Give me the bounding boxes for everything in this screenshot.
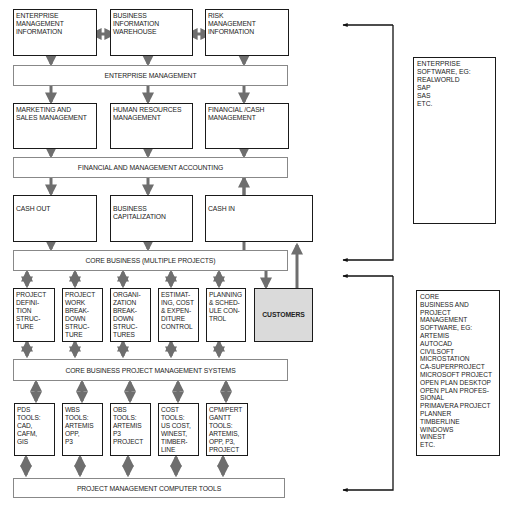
software-line: PROJECT — [420, 309, 496, 317]
core-business-band: CORE BUSINESS (MULTIPLE PROJECTS) — [13, 250, 288, 271]
core-business-pm-systems-band: CORE BUSINESS PROJECT MANAGEMENT SYSTEMS — [13, 359, 288, 381]
box-text: P3 — [113, 430, 148, 438]
box-text: & EXPEN- — [161, 307, 196, 315]
box-text: BREAK- — [113, 307, 148, 315]
cash-out-box: CASH OUT — [13, 195, 97, 242]
box-text: HUMAN RESOURCES — [113, 106, 190, 114]
box-text: ESTIMAT- — [161, 291, 196, 299]
software-line: BUSINESS AND — [420, 301, 496, 309]
box-text: ULE CON- — [209, 307, 243, 315]
software-line: SAP — [417, 84, 492, 92]
box-text: CPM/PERT — [209, 406, 245, 414]
project-definition-structure-box: PROJECT DEFINI- TION STRUC- TURE — [13, 288, 55, 342]
financial-management-accounting-band: FINANCIAL AND MANAGEMENT ACCOUNTING — [13, 157, 288, 178]
enterprise-management-band: ENTERPRISE MANAGEMENT — [13, 65, 288, 86]
business-capitalization-box: BUSINESS CAPITALIZATION — [110, 195, 193, 242]
box-text: SALES MANAGEMENT — [16, 114, 94, 122]
box-text: BUSINESS — [113, 205, 190, 213]
box-text: TIMBER- — [161, 438, 196, 446]
box-text: PROJECT — [113, 438, 148, 446]
box-text: PROJECT — [209, 446, 245, 454]
box-text: MANAGEMENT — [208, 114, 286, 122]
box-text: DITURE — [161, 315, 196, 323]
box-text: RISK — [208, 12, 286, 20]
box-text: LINE — [161, 446, 196, 454]
band-label: PROJECT MANAGEMENT COMPUTER TOOLS — [77, 485, 221, 492]
pds-tools-box: PDS TOOLS: CAD, CAFM, GIS — [14, 403, 55, 456]
box-text: WORK — [65, 299, 100, 307]
box-text: CAFM, — [17, 430, 52, 438]
estimating-cost-expenditure-control-box: ESTIMAT- ING, COST & EXPEN- DITURE CONTR… — [158, 288, 199, 342]
box-text: PROJECT — [16, 291, 52, 299]
software-line: WINEST — [420, 433, 496, 441]
planning-schedule-control-box: PLANNING & SCHED- ULE CON- TROL — [206, 288, 246, 342]
box-text: TOOLS: — [161, 414, 196, 422]
box-text: STRUC- — [65, 323, 100, 331]
cpm-pert-gantt-tools-box: CPM/PERT GANTT TOOLS: ARTEMIS, OPP, P3, … — [206, 403, 248, 456]
customers-box: CUSTOMERS — [254, 288, 313, 342]
box-text: GIS — [17, 438, 52, 446]
box-text: TOOLS: — [65, 414, 100, 422]
band-label: CORE BUSINESS PROJECT MANAGEMENT SYSTEMS — [65, 367, 235, 374]
core-software-box: CORE BUSINESS AND PROJECT MANAGEMENT SOF… — [416, 290, 500, 456]
software-line: MANAGEMENT — [420, 316, 496, 324]
software-line: SAS — [417, 92, 492, 100]
software-line: ENTERPRISE — [417, 60, 492, 68]
box-text: OPP, P3, — [209, 438, 245, 446]
box-text: MANAGEMENT — [16, 20, 94, 28]
box-text: TOOLS: — [209, 422, 245, 430]
software-line: PRIMAVERA PROJECT — [420, 402, 496, 410]
software-line: ETC. — [420, 441, 496, 449]
box-text: OPP, — [65, 430, 100, 438]
project-work-breakdown-structure-box: PROJECT WORK BREAK- DOWN STRUC- TURE — [62, 288, 103, 342]
risk-management-information-box: RISK MANAGEMENT INFORMATION — [205, 9, 289, 56]
box-text: CAD, — [17, 422, 52, 430]
box-text: DOWN — [113, 315, 148, 323]
box-text: US COST, — [161, 422, 196, 430]
box-text: COST — [161, 406, 196, 414]
box-text: ENTERPRISE — [16, 12, 94, 20]
organization-breakdown-structures-box: ORGANI- ZATION BREAK- DOWN STRUC- TURES — [110, 288, 151, 342]
enterprise-software-box: ENTERPRISE SOFTWARE, EG: REALWORLD SAP S… — [413, 57, 496, 224]
box-text: TURE — [65, 331, 100, 339]
software-line: TIMBERLINE — [420, 418, 496, 426]
box-text: & SCHED- — [209, 299, 243, 307]
financial-cash-management-box: FINANCIAL /CASH MANAGEMENT — [205, 103, 289, 149]
box-text: CUSTOMERS — [262, 311, 304, 319]
box-text: STRUC- — [16, 315, 52, 323]
pm-computer-tools-band: PROJECT MANAGEMENT COMPUTER TOOLS — [13, 478, 285, 498]
box-text: STRUC- — [113, 323, 148, 331]
software-line: ARTEMIS — [420, 332, 496, 340]
software-line: ETC. — [417, 100, 492, 108]
box-text: CAPITALIZATION — [113, 213, 190, 221]
box-text: INFORMATION — [113, 20, 190, 28]
box-text: TOOLS: — [113, 414, 148, 422]
marketing-sales-management-box: MARKETING AND SALES MANAGEMENT — [13, 103, 97, 149]
box-text: CONTROL — [161, 323, 196, 331]
software-line: CORE — [420, 293, 496, 301]
box-text: P3 — [65, 438, 100, 446]
human-resources-management-box: HUMAN RESOURCES MANAGEMENT — [110, 103, 193, 149]
software-line: SOFTWARE, EG: — [417, 68, 492, 76]
box-text: OBS — [113, 406, 148, 414]
box-text: TOOLS: — [17, 414, 52, 422]
box-text: FINANCIAL /CASH — [208, 106, 286, 114]
box-text: WAREHOUSE — [113, 28, 190, 36]
band-label: FINANCIAL AND MANAGEMENT ACCOUNTING — [78, 164, 223, 171]
software-line: SOFTWARE, EG: — [420, 324, 496, 332]
box-text: PLANNING — [209, 291, 243, 299]
software-line: AUTOCAD — [420, 340, 496, 348]
box-text: TURE — [16, 323, 52, 331]
obs-tools-box: OBS TOOLS: ARTEMIS P3 PROJECT — [110, 403, 151, 456]
software-line: MICROSTATION — [420, 355, 496, 363]
box-text: GANTT — [209, 414, 245, 422]
band-label: ENTERPRISE MANAGEMENT — [105, 72, 197, 79]
box-text: BUSINESS — [113, 12, 190, 20]
box-text: MARKETING AND — [16, 106, 94, 114]
box-text: INFORMATION — [208, 28, 286, 36]
box-text: MANAGEMENT — [208, 20, 286, 28]
software-line: SIONAL — [420, 394, 496, 402]
software-line: CIVILSOFT — [420, 348, 496, 356]
software-line: WINDOWS — [420, 426, 496, 434]
box-text: WBS — [65, 406, 100, 414]
